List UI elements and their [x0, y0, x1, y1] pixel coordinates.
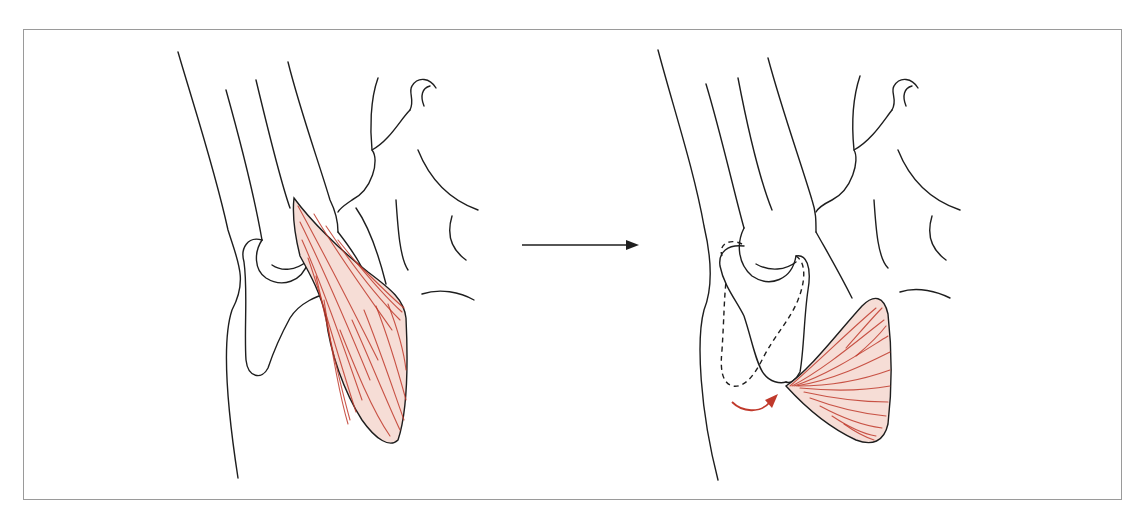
- anatomy-diagram: [0, 0, 1138, 518]
- rotation-arrow-icon: [732, 394, 778, 410]
- right-arrow-icon: [522, 240, 639, 250]
- panel-before: [178, 52, 478, 478]
- panel-after: [658, 50, 960, 480]
